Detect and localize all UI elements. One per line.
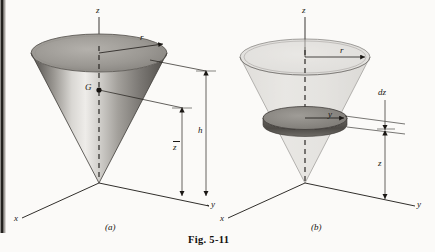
panel-a-graphics [22,17,216,218]
panel-b-dz-leader-bottom [347,127,405,134]
panel-a-y-axis-label: y [211,200,215,209]
panel-a-zbar-label: z [173,143,177,152]
panel-a-x-axis-label: x [14,214,18,223]
zbar-overbar [173,141,180,142]
panel-b-y-axis-label: y [417,200,421,209]
panel-b-dz-leader-top [345,116,405,124]
panel-b-disk-element [263,107,347,137]
panel-a-centroid-label: G [85,83,92,92]
panel-b-x-axis [228,183,305,218]
panel-a-sublabel: (a) [105,222,116,232]
figure-5-11: z r G z h y x (a) z r y dz z y x (b) Fig… [0,0,435,252]
panel-a-y-axis [99,183,209,206]
panel-a-zbar-text: z [173,142,177,152]
figure-caption: Fig. 5-11 [188,234,229,245]
panel-a-z-axis-label: z [96,6,100,15]
panel-a-x-axis [22,183,99,218]
panel-b-z-axis-label: z [302,6,306,15]
panel-b-z-label: z [378,159,382,168]
panel-b-graphics [228,17,415,218]
panel-b-dz-label: dz [378,88,386,97]
panel-b-y-axis [305,183,415,206]
panel-b-disk-radius-label: y [328,110,332,119]
panel-a-radius-label: r [140,33,144,42]
panel-b-sublabel: (b) [311,222,322,232]
figure-vector-canvas [0,0,435,252]
panel-b-x-axis-label: x [220,214,224,223]
panel-a-height-label: h [198,126,203,135]
panel-b-radius-label: r [340,46,344,55]
